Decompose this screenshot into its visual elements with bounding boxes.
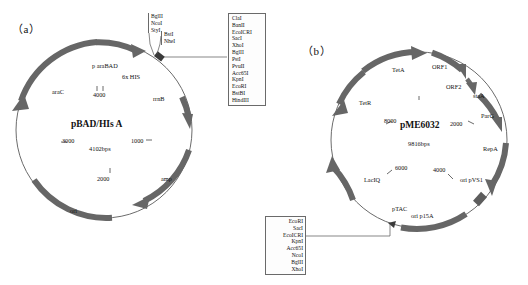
panel-a-plasmid-name: pBAD/HIs A [71,119,122,129]
panel-a-tick-label-1000: 1000 [131,138,143,145]
panel-a-arc-parabad [96,42,137,51]
panel-b-mcs-enzyme-box: EcoRI SacI EcoICRI KpnI Acc65I NcoI BglI… [265,216,306,275]
panel-b-feature-orf1: ORF1 [432,64,447,71]
panel-a-enzyme-8: Acc65I [232,70,263,77]
panel-b-feature-ori-p15a: ori p15A [411,213,434,220]
panel-a-enzyme-7: PvuII [232,63,263,70]
panel-b-enzyme-5: NcoI [269,252,303,259]
panel-b-arrowhead-repa [485,179,497,196]
panel-b-block-ori-pvs1 [473,192,487,206]
panel-a-enzyme-11: BstBI [232,90,263,97]
panel-a-mcs-enzyme-box: ClaI BanII EcoICRI SacI XhoI BglII PstI … [228,13,266,106]
panel-b-tick-4000 [448,174,453,179]
panel-b-ptac-marker [388,221,396,228]
panel-a-plasmid-size: 4102bps [89,145,111,152]
panel-a-mcs-g1-item-1: NcoI [151,20,163,27]
panel-a-feature-ori: ori [70,208,77,215]
panel-a-feature-amp: amp [161,176,172,183]
panel-a-enzyme-1: BanII [232,22,263,29]
panel-b-tick-6000 [387,170,392,174]
panel-a-leader-group1 [149,33,154,55]
panel-a-arrowhead-parabad [131,44,146,58]
panel-b-arrowhead-teta [411,46,427,60]
panel-b-feature-orf2: ORF2 [446,84,461,91]
panel-b-tick-label-4000: 4000 [433,167,445,174]
panel-b-feature-staa: staA [473,93,485,100]
panel-a-arrowhead-rrnb [182,113,193,129]
panel-b-arc-laciq [333,167,353,200]
panel-a-feature-arac: araC [52,89,64,96]
panel-b-arrowhead-orf1 [456,64,466,79]
panel-b-tick-2000 [468,121,474,124]
panel-a-feature-6x-his: 6x HIS [122,74,140,81]
panel-a-mcs-g1-item-0: BglII [151,13,163,20]
panel-a-mcs-group-2: BstI NheI [161,31,175,45]
panel-a-enzyme-10: EcoRI [232,83,263,90]
panel-b-enzyme-6: BglII [269,259,303,266]
panel-a-enzyme-3: SacI [232,35,263,42]
panel-b-plasmid-name: pME6032 [400,120,440,130]
panel-b-label: （b） [302,42,331,58]
panel-b-enzyme-0: EcoRI [269,218,303,225]
panel-a-enzyme-12: HindIII [232,97,263,104]
panel-a-feature-rrnb: rrnB [153,96,165,103]
panel-a-mcs-marker [154,51,165,61]
panel-b-tick-label-2000: 2000 [450,121,462,128]
panel-b-enzyme-7: XhoI [269,266,303,273]
panel-a-enzyme-5: BglII [232,49,263,56]
panel-b-enzyme-1: SacI [269,225,303,232]
panel-a-tick-label-2000: 2000 [97,176,109,183]
panel-b-feature-ptac: pTAC [392,206,407,213]
panel-b-feature-ori-pvs1: ori pVS1 [460,177,483,184]
panel-a-enzyme-6: PstI [232,56,263,63]
panel-b-feature-teta: TetA [392,67,405,74]
panel-b-leader-mcsbox [306,224,390,236]
panel-b-plasmid-size: 9816bps [408,140,430,147]
panel-b-feature-parg: ParG [481,113,494,120]
panel-a-arrowhead-amp [132,196,150,209]
panel-a-mcs-g2-item-0: BstI [164,31,175,38]
panel-b-arc-teta [363,52,417,71]
panel-a-enzyme-2: EcoICRI [232,29,263,36]
panel-b-tick-label-6000: 6000 [395,165,407,172]
panel-b-enzyme-2: EcoICRI [269,232,303,239]
panel-a-enzyme-4: XhoI [232,42,263,49]
panel-b-tick-label-8000: 8000 [384,118,396,125]
panel-b-enzyme-3: KpnI [269,238,303,245]
panel-b-enzyme-4: Acc65I [269,245,303,252]
panel-a-mcs-g2-item-1: NheI [164,38,175,45]
panel-a-tick-label-3000: 3000 [62,138,74,145]
panel-b-feature-tetr: TetR [359,100,371,107]
panel-a-feature-p-arabad: p araBAD [92,63,118,70]
panel-b-feature-laciq: LacIQ [364,177,380,184]
panel-a-enzyme-9: KpnI [232,76,263,83]
panel-b-arrowhead-laciq [326,156,340,173]
plasmid-map-figure: （a） [0,0,528,285]
panel-a-tick-label-4000: 4000 [93,92,105,99]
panel-b-feature-repa: RepA [483,146,498,153]
panel-a-enzyme-0: ClaI [232,15,263,22]
